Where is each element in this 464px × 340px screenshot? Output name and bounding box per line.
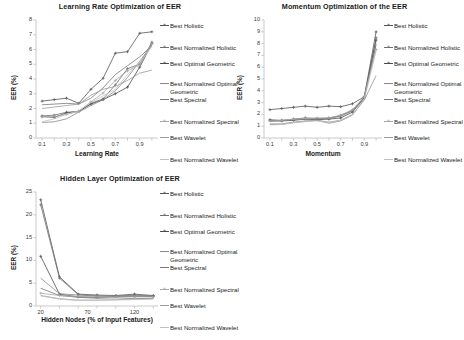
legend-label: Best Wavelet (170, 134, 206, 142)
y-tick-label: 15 (14, 235, 32, 241)
x-tick-label: 0.5 (307, 142, 327, 148)
legend-label: Best Optimal Geometric (170, 60, 235, 68)
y-tick-label: 20 (14, 212, 32, 218)
legend-item-best-normalized-spectral[interactable]: +Best Normalized Spectral (160, 286, 240, 294)
legend-momentum: +Best Holistic+Best Normalized Holistic+… (384, 22, 464, 162)
legend-marker-icon (160, 324, 169, 330)
y-tick-label: 3 (242, 100, 260, 106)
y-tick-label: 9 (242, 29, 260, 35)
legend-marker-icon (160, 156, 169, 162)
y-tick-label: 0 (242, 135, 260, 141)
legend-label: Best Wavelet (170, 302, 206, 310)
y-tick-label: 5 (242, 76, 260, 82)
legend-label: Best Holistic (394, 22, 428, 30)
y-tick-label: 2 (242, 111, 260, 117)
series-canvas-momentum (264, 20, 382, 138)
legend-marker-icon: + (384, 60, 393, 66)
legend-item-best-optimal-geometric[interactable]: +Best Optimal Geometric (384, 60, 464, 68)
legend-item-best-normalized-holistic[interactable]: +Best Normalized Holistic (384, 44, 464, 52)
legend-label: Best Normalized Holistic (170, 212, 236, 220)
legend-label: Best Wavelet (394, 134, 430, 142)
x-tick-label: 0.3 (284, 142, 304, 148)
y-tick-label: 8 (242, 41, 260, 47)
x-tick-label: 0.9 (354, 142, 374, 148)
plot-area-hidden-layer (36, 192, 158, 306)
legend-marker-icon (384, 80, 393, 86)
legend-label: Best Normalized Optimal Geometric (394, 80, 464, 95)
x-axis-label-learning-rate: Learning Rate (36, 150, 158, 157)
legend-item-best-wavelet[interactable]: Best Wavelet (160, 302, 240, 310)
y-tick-label: 0 (14, 135, 32, 141)
y-tick-label: 1 (242, 123, 260, 129)
legend-label: Best Optimal Geometric (394, 60, 459, 68)
legend-marker-icon (160, 264, 169, 270)
plot-area-momentum (264, 20, 382, 138)
legend-label: Best Spectral (170, 96, 206, 104)
y-tick-label: 0 (14, 303, 32, 309)
legend-item-best-normalized-holistic[interactable]: +Best Normalized Holistic (160, 212, 240, 220)
y-tick-label: 6 (242, 64, 260, 70)
legend-item-best-holistic[interactable]: +Best Holistic (384, 22, 464, 30)
legend-label: Best Optimal Geometric (170, 228, 235, 236)
legend-marker-icon (384, 156, 393, 162)
chart-panel-momentum: Momentum Optimization of the EER EER (%)… (228, 2, 461, 170)
legend-label: Best Normalized Holistic (394, 44, 460, 52)
chart-panel-learning-rate: Learning Rate Optimization of EER EER (%… (0, 2, 240, 170)
legend-label: Best Normalized Spectral (170, 286, 239, 294)
x-tick-label: 0.5 (81, 142, 101, 148)
legend-marker-icon: + (160, 44, 169, 50)
x-tick-label: 0.7 (105, 142, 125, 148)
legend-item-best-optimal-geometric[interactable]: +Best Optimal Geometric (160, 228, 240, 236)
legend-marker-icon: + (384, 22, 393, 28)
chart-title-momentum: Momentum Optimization of the EER (228, 2, 461, 11)
legend-item-best-spectral[interactable]: Best Spectral (160, 264, 240, 272)
legend-marker-icon: + (160, 60, 169, 66)
legend-marker-icon: + (160, 22, 169, 28)
legend-label: Best Normalized Spectral (394, 118, 463, 126)
y-tick-label: 6 (14, 47, 32, 53)
legend-label: Best Normalized Wavelet (170, 324, 238, 332)
y-tick-label: 5 (14, 61, 32, 67)
chart-title-hidden-layer: Hidden Layer Optimization of EER (0, 174, 240, 183)
x-tick-label: 0.3 (57, 142, 77, 148)
x-axis-label-hidden-layer: Hidden Nodes (% of Input Features) (22, 316, 172, 323)
legend-item-best-normalized-optimal-geometric[interactable]: Best Normalized Optimal Geometric (384, 80, 464, 95)
legend-item-best-normalized-wavelet[interactable]: Best Normalized Wavelet (384, 156, 464, 164)
y-tick-label: 4 (14, 76, 32, 82)
y-tick-label: 1 (14, 120, 32, 126)
y-tick-label: 2 (14, 106, 32, 112)
legend-marker-icon: + (384, 44, 393, 50)
y-tick-label: 7 (242, 52, 260, 58)
legend-marker-icon (384, 96, 393, 102)
legend-item-best-spectral[interactable]: Best Spectral (384, 96, 464, 104)
legend-label: Best Normalized Holistic (170, 44, 236, 52)
legend-marker-icon: + (160, 212, 169, 218)
legend-label: Best Spectral (394, 96, 430, 104)
x-axis-label-momentum: Momentum (264, 150, 382, 157)
legend-item-best-normalized-spectral[interactable]: +Best Normalized Spectral (384, 118, 464, 126)
x-tick-label: 20 (31, 310, 51, 316)
legend-item-best-holistic[interactable]: +Best Holistic (160, 190, 240, 198)
legend-marker-icon (160, 302, 169, 308)
legend-marker-icon: + (160, 118, 169, 124)
x-tick-label: 0.1 (260, 142, 280, 148)
legend-item-best-wavelet[interactable]: Best Wavelet (384, 134, 464, 142)
y-tick-label: 10 (242, 17, 260, 23)
plot-area-learning-rate (36, 20, 158, 138)
legend-marker-icon (160, 80, 169, 86)
legend-marker-icon (160, 134, 169, 140)
legend-label: Best Normalized Wavelet (394, 156, 462, 164)
y-tick-label: 4 (242, 88, 260, 94)
legend-item-best-normalized-wavelet[interactable]: Best Normalized Wavelet (160, 324, 240, 332)
y-tick-label: 25 (14, 189, 32, 195)
y-tick-label: 7 (14, 32, 32, 38)
legend-marker-icon: + (160, 228, 169, 234)
y-tick-label: 3 (14, 91, 32, 97)
x-tick-label: 70 (78, 310, 98, 316)
legend-marker-icon: + (160, 286, 169, 292)
legend-marker-icon (160, 96, 169, 102)
y-tick-label: 8 (14, 17, 32, 23)
legend-item-best-normalized-optimal-geometric[interactable]: Best Normalized Optimal Geometric (160, 248, 240, 263)
x-tick-label: 0.1 (32, 142, 52, 148)
